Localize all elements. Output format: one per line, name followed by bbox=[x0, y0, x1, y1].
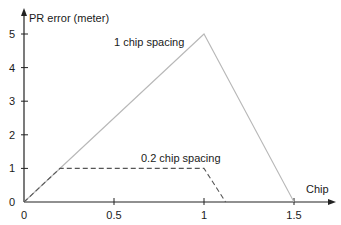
x-tick-label: 1.5 bbox=[286, 209, 301, 221]
y-tick-label: 0 bbox=[9, 196, 15, 208]
x-tick-label: 1 bbox=[201, 209, 207, 221]
y-tick-label: 4 bbox=[9, 62, 15, 74]
chart: 00.511.5 012345 PR error (meter) Chip 1 … bbox=[0, 0, 341, 225]
y-axis-arrow-icon bbox=[21, 8, 27, 16]
y-ticks: 012345 bbox=[9, 28, 28, 208]
series-line-0-2-chip-spacing bbox=[24, 168, 226, 202]
y-tick-label: 5 bbox=[9, 28, 15, 40]
annotations: 1 chip spacing0.2 chip spacing bbox=[114, 36, 221, 164]
y-tick-label: 3 bbox=[9, 95, 15, 107]
y-tick-label: 1 bbox=[9, 162, 15, 174]
y-axis-label: PR error (meter) bbox=[29, 12, 109, 24]
x-tick-label: 0 bbox=[21, 209, 27, 221]
annotation-label: 0.2 chip spacing bbox=[141, 152, 221, 164]
y-tick-label: 2 bbox=[9, 129, 15, 141]
series-line-1-chip-spacing bbox=[24, 34, 294, 202]
annotation-label: 1 chip spacing bbox=[114, 36, 184, 48]
x-axis-arrow-icon bbox=[328, 199, 336, 205]
series bbox=[24, 34, 294, 202]
x-axis-label: Chip bbox=[306, 183, 329, 195]
x-tick-label: 0.5 bbox=[106, 209, 121, 221]
